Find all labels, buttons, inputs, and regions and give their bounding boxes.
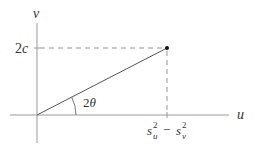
v-value-coef: 2 — [15, 41, 22, 56]
sv-base: s — [176, 123, 181, 138]
su-sub: u — [153, 131, 158, 141]
minus-sign: − — [163, 122, 170, 137]
su-sup: 2 — [153, 120, 158, 130]
angle-arc — [72, 97, 76, 115]
su-base: s — [147, 123, 152, 138]
u-axis-label: u — [237, 107, 244, 122]
v-axis-label: v — [33, 6, 40, 21]
v-value-label: 2c — [15, 41, 29, 56]
v-value-var: c — [22, 41, 29, 56]
vector-line — [37, 48, 167, 115]
sv-sup: 2 — [182, 120, 187, 130]
diagram-canvas: v u 2c 2θ s 2 u − s 2 v — [0, 0, 255, 149]
u-value-label: s 2 u − s 2 v — [147, 120, 187, 141]
angle-label: 2θ — [83, 95, 97, 110]
data-point — [165, 46, 169, 50]
angle-var: θ — [90, 95, 97, 110]
sv-sub: v — [182, 131, 186, 141]
